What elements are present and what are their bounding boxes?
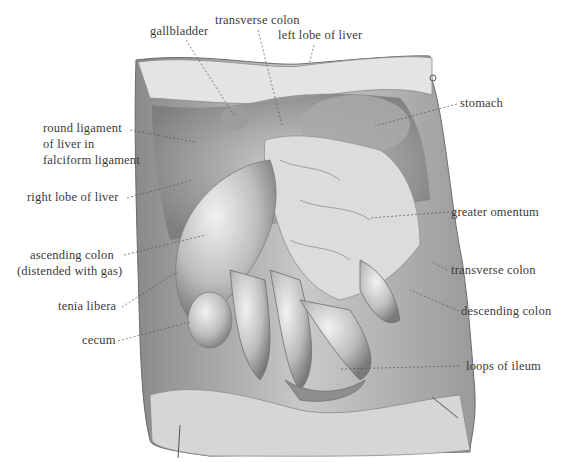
label-tenia-libera: tenia libera <box>58 299 116 314</box>
label-ascending-colon-line1: ascending colon <box>30 248 114 263</box>
label-cecum: cecum <box>82 333 116 348</box>
label-left-lobe-of-liver: left lobe of liver <box>278 28 362 43</box>
abdominal-illustration <box>0 0 571 462</box>
gallbladder-shape <box>221 106 249 130</box>
anatomy-figure: gallbladder transverse colon left lobe o… <box>0 0 571 462</box>
label-transverse-colon-top: transverse colon <box>215 13 300 28</box>
label-loops-of-ileum: loops of ileum <box>466 359 541 374</box>
cecum-shape <box>188 292 232 348</box>
label-gallbladder: gallbladder <box>150 24 208 39</box>
label-right-lobe-of-liver: right lobe of liver <box>27 190 119 205</box>
label-greater-omentum: greater omentum <box>451 205 539 220</box>
label-stomach: stomach <box>460 96 503 111</box>
label-descending-colon: descending colon <box>461 304 551 319</box>
label-round-ligament-line1: round ligament <box>43 121 122 136</box>
label-round-ligament-line2: of liver in <box>43 137 95 152</box>
label-ascending-colon-line2: (distended with gas) <box>17 264 122 279</box>
label-transverse-colon-right: transverse colon <box>451 263 536 278</box>
label-round-ligament-line3: falciform ligament <box>43 153 140 168</box>
